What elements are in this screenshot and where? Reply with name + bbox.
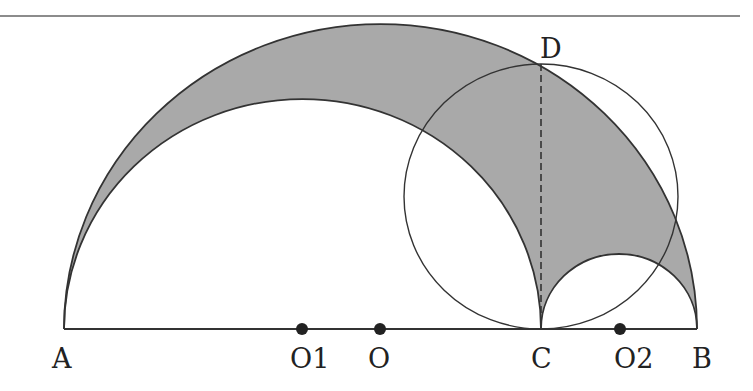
label-O1: O1 (290, 343, 329, 374)
label-B: B (692, 343, 712, 374)
label-A: A (51, 343, 72, 374)
label-C: C (531, 343, 552, 374)
point-O2-dot (614, 323, 626, 335)
arbelos-diagram: A O1 O C O2 B D (0, 0, 753, 391)
label-D: D (540, 33, 562, 64)
shaded-arbelos-region (64, 24, 697, 329)
label-O2: O2 (614, 343, 653, 374)
point-O-dot (374, 323, 386, 335)
point-O1-dot (296, 323, 308, 335)
label-O: O (368, 343, 390, 374)
